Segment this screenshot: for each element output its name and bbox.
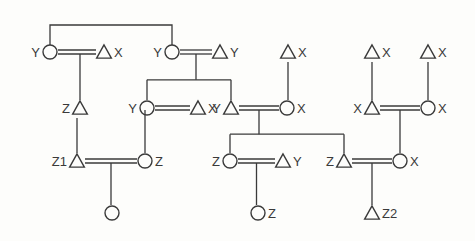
triangle-icon — [365, 45, 380, 58]
male-individual: Y — [212, 101, 238, 116]
individual-label: X — [438, 101, 447, 116]
kinship-diagram: YXYYXXXZYXYXXXZ1ZZYZXZZ2 — [0, 0, 475, 241]
individual-label: Y — [128, 101, 137, 116]
circle-icon — [280, 101, 294, 115]
individual-label: X — [114, 45, 123, 60]
circle-icon — [105, 206, 119, 220]
female-individual: Z — [212, 154, 237, 169]
individual-label: X — [410, 154, 419, 169]
circle-icon — [43, 45, 57, 59]
female-individual: Y — [153, 45, 179, 60]
female-individual: Z — [251, 206, 276, 221]
circle-icon — [251, 206, 265, 220]
male-individual: Z1 — [52, 154, 85, 169]
individual-label: Z2 — [382, 206, 397, 221]
individual-label: X — [297, 101, 306, 116]
triangle-icon — [70, 154, 85, 167]
individual-label: Y — [230, 45, 239, 60]
individual-label: Z — [268, 206, 276, 221]
individual-label: X — [298, 45, 307, 60]
female-individual: X — [421, 101, 447, 116]
triangle-icon — [365, 206, 380, 219]
male-individual: X — [365, 45, 391, 60]
triangle-icon — [276, 154, 291, 167]
female-individual: Y — [31, 45, 57, 60]
sibling-bracket — [50, 25, 172, 45]
triangle-icon — [281, 45, 296, 58]
male-individual: Y — [213, 45, 239, 60]
female-individual: X — [393, 154, 419, 169]
triangle-icon — [224, 101, 239, 114]
female-individual: Z — [138, 154, 163, 169]
circle-icon — [421, 101, 435, 115]
individual-label: X — [353, 101, 362, 116]
circle-icon — [140, 101, 154, 115]
triangle-icon — [421, 45, 436, 58]
individual-label: Y — [31, 45, 40, 60]
triangle-icon — [365, 101, 380, 114]
male-individual: Z2 — [365, 206, 398, 221]
male-individual: X — [97, 45, 123, 60]
female-individual: X — [280, 101, 306, 116]
circle-icon — [138, 154, 152, 168]
female-individual — [105, 206, 119, 220]
circle-icon — [393, 154, 407, 168]
triangle-icon — [73, 101, 88, 114]
male-individual: Y — [276, 154, 302, 169]
triangle-icon — [97, 45, 112, 58]
male-individual: X — [421, 45, 447, 60]
individual-label: Z — [62, 101, 70, 116]
male-individual: Z — [62, 101, 87, 116]
circle-icon — [165, 45, 179, 59]
connector-lines — [50, 25, 428, 205]
individuals: YXYYXXXZYXYXXXZ1ZZYZXZZ2 — [31, 45, 447, 221]
male-individual: X — [353, 101, 379, 116]
individual-label: X — [382, 45, 391, 60]
individual-label: Z — [155, 154, 163, 169]
male-individual: X — [281, 45, 307, 60]
individual-label: Y — [212, 101, 221, 116]
male-individual: Z — [326, 154, 351, 169]
individual-label: Z1 — [52, 154, 67, 169]
triangle-icon — [191, 101, 206, 114]
triangle-icon — [337, 154, 352, 167]
individual-label: Y — [293, 154, 302, 169]
individual-label: Z — [326, 154, 334, 169]
individual-label: X — [438, 45, 447, 60]
individual-label: Z — [212, 154, 220, 169]
individual-label: Y — [153, 45, 162, 60]
female-individual: Y — [128, 101, 154, 116]
circle-icon — [223, 154, 237, 168]
triangle-icon — [213, 45, 228, 58]
